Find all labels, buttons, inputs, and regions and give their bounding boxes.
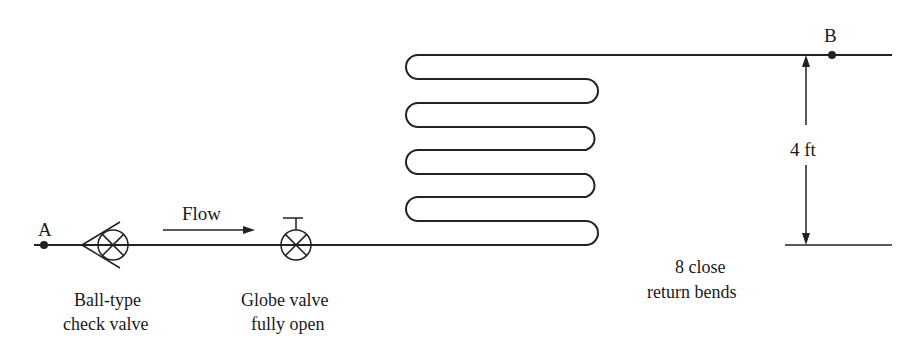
globe-valve-label-2: fully open	[251, 314, 325, 334]
return-bends-label-2: return bends	[647, 282, 736, 302]
flow-arrow-icon	[163, 226, 255, 234]
globe-valve-icon	[281, 218, 311, 260]
return-bends-label-1: 8 close	[675, 257, 725, 277]
return-bends-coil	[406, 55, 892, 245]
point-b-dot	[828, 51, 836, 59]
flow-label: Flow	[182, 203, 221, 224]
dimension-label: 4 ft	[790, 139, 817, 160]
globe-valve-label-1: Globe valve	[241, 290, 328, 310]
piping-diagram: A Flow B 4 ft Ball-type check valve Glo	[0, 0, 898, 353]
point-a-label: A	[38, 219, 52, 240]
point-b-label: B	[824, 25, 837, 46]
check-valve-label-1: Ball-type	[74, 290, 141, 310]
check-valve-label-2: check valve	[63, 314, 148, 334]
